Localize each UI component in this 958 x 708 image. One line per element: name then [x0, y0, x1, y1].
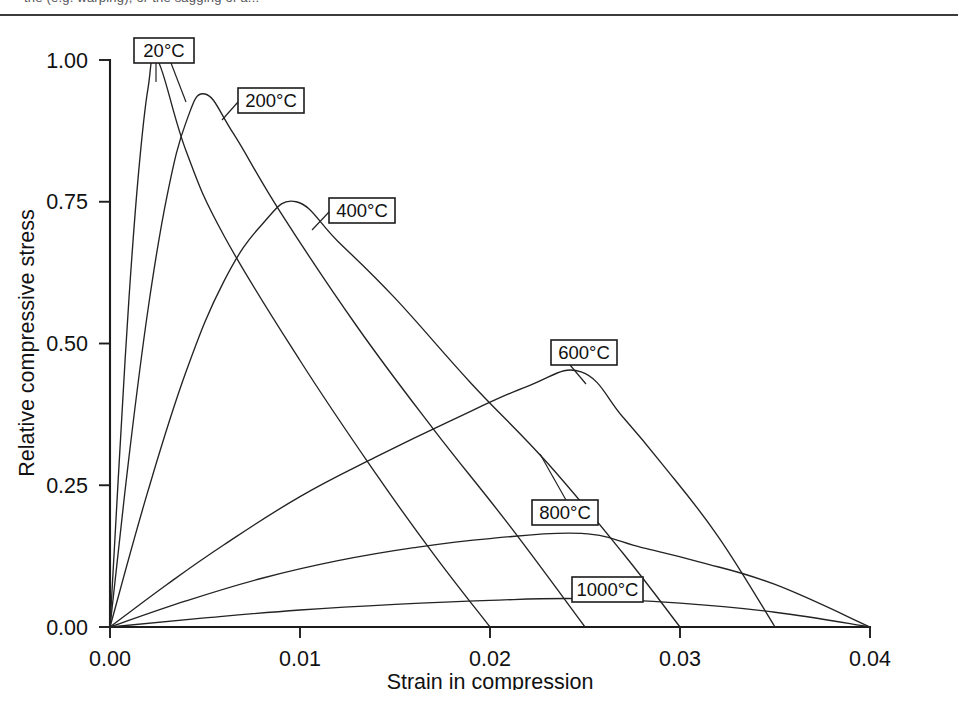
callout-400c: 400°C — [329, 198, 395, 223]
x-tick-label: 0.03 — [659, 647, 701, 671]
callout-label-800c: 800°C — [539, 502, 591, 523]
x-tick-label: 0.04 — [849, 647, 891, 671]
stress-strain-chart: 0.00 0.25 0.50 0.75 1.00 0.00 0.01 0.02 … — [0, 16, 958, 690]
callout-1000c: 1000°C — [572, 577, 643, 602]
clipped-body-text: the (e.g. warping), or the sagging of a.… — [0, 0, 958, 11]
x-tick-label: 0.01 — [279, 647, 321, 671]
x-tick-label: 0.00 — [89, 647, 131, 671]
scan-noise-bottom: · ·· · ··· · ·· ··· · ···· · ·· ··· ·· ·… — [0, 698, 958, 705]
curve-600c — [110, 370, 775, 627]
curve-800c — [110, 533, 870, 627]
chart-container: 0.00 0.25 0.50 0.75 1.00 0.00 0.01 0.02 … — [0, 16, 958, 706]
figure-page: the (e.g. warping), or the sagging of a.… — [0, 0, 958, 708]
callout-label-20c: 20°C — [143, 40, 184, 61]
curve-1000c — [110, 598, 870, 627]
callout-label-400c: 400°C — [336, 200, 388, 221]
data-curves — [110, 56, 870, 627]
x-axis-tick-labels: 0.00 0.01 0.02 0.03 0.04 — [89, 647, 891, 671]
y-axis-tick-labels: 0.00 0.25 0.50 0.75 1.00 — [46, 49, 88, 640]
curve-200c — [110, 94, 585, 627]
callout-600c: 600°C — [551, 340, 617, 365]
x-tick-label: 0.02 — [469, 647, 511, 671]
leader-20c-2 — [171, 63, 186, 102]
callout-label-200c: 200°C — [245, 90, 297, 111]
y-tick-label: 1.00 — [46, 49, 88, 73]
callout-200c: 200°C — [238, 88, 304, 113]
curve-400c — [110, 201, 680, 627]
y-axis-title: Relative compressive stress — [15, 209, 39, 477]
leader-600c — [570, 365, 586, 384]
clipped-body-text-line: the (e.g. warping), or the sagging of a.… — [24, 0, 259, 4]
y-tick-label: 0.50 — [46, 332, 88, 356]
callout-20c: 20°C — [134, 38, 194, 63]
y-tick-label: 0.25 — [46, 474, 88, 498]
y-tick-label: 0.75 — [46, 190, 88, 214]
series-callouts: 20°C200°C400°C600°C800°C1000°C — [134, 38, 643, 602]
callout-label-600c: 600°C — [558, 342, 610, 363]
scan-noise-line: · ·· · ··· · ·· ··· · ···· · ·· ··· ·· ·… — [10, 698, 452, 702]
callout-label-1000c: 1000°C — [577, 579, 639, 600]
callout-800c: 800°C — [532, 500, 598, 525]
y-tick-label: 0.00 — [46, 616, 88, 640]
leader-200c — [222, 102, 238, 120]
x-axis-title: Strain in compression — [387, 670, 594, 690]
y-axis-ticks — [99, 60, 110, 627]
leader-800c — [540, 454, 566, 500]
x-axis-ticks — [110, 627, 870, 638]
